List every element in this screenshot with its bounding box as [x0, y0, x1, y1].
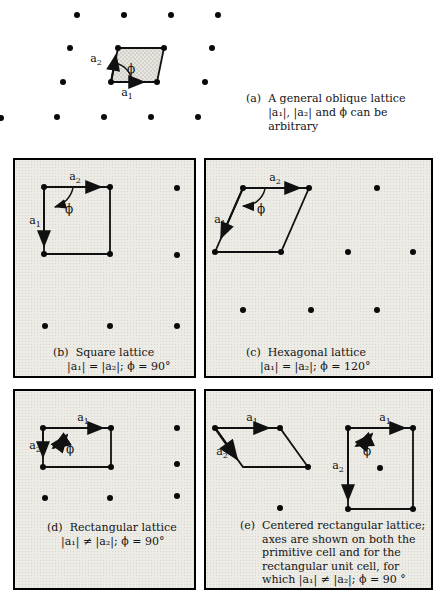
cell-corner-dot — [107, 251, 113, 257]
lattice-dot — [174, 461, 180, 467]
a1-label: a1 — [379, 411, 391, 426]
rectangular-unit-cell: a1 a2 ϕ — [29, 411, 114, 470]
a2-label: a2 — [269, 171, 281, 186]
lattice-dot — [308, 307, 314, 313]
caption-d-title: Rectangular lattice — [70, 521, 177, 535]
lattice-dot — [174, 185, 180, 191]
lattice-dot — [209, 45, 215, 51]
panel-d-rectangular-lattice: a1 a2 ϕ (d) Rectangular lattice |a₁| ≠ |… — [13, 389, 196, 590]
cell-corner-dot — [107, 184, 113, 190]
lattice-dot — [202, 79, 208, 85]
a1-label: a1 — [121, 86, 133, 101]
cell-corner-dot — [108, 425, 114, 431]
cell-corner-dot — [40, 464, 46, 470]
lattice-dot — [148, 114, 154, 120]
square-unit-cell: a2 a1 ϕ — [29, 170, 113, 257]
phi-angle-double-arrow — [53, 435, 67, 448]
lattice-dot — [54, 114, 60, 120]
cell-corner-dot — [345, 506, 351, 512]
caption-b-tag: (b) — [53, 346, 69, 360]
caption-a-line: A general oblique lattice — [268, 92, 436, 106]
a1-label: a1 — [214, 213, 226, 228]
a1-label: a1 — [77, 411, 89, 426]
bravais-lattices-figure: a2 a1 ϕ (a) A general oblique lattice |a… — [0, 0, 447, 604]
lattice-dot — [374, 185, 380, 191]
caption-e-line: which |a₁| ≠ |a₂|; ϕ = 90 ° — [262, 573, 430, 587]
lattice-dots — [240, 185, 416, 313]
phi-label: ϕ — [127, 62, 135, 76]
lattice-dot — [215, 12, 221, 18]
caption-b-formula: |a₁| = |a₂|; ϕ = 90° — [67, 360, 193, 374]
center-dot — [377, 465, 383, 471]
caption-e-line: rectangular unit cell, for — [262, 560, 430, 574]
oblique-unit-cell: a2 a1 ϕ — [90, 45, 167, 101]
panel-b-square-lattice: a2 a1 ϕ (b) Square lattice |a₁| = |a₂|; … — [13, 158, 196, 378]
caption-e: (e) Centered rectangular lattice; axes a… — [240, 519, 430, 587]
lattice-dot — [195, 114, 201, 120]
a1-vector — [221, 188, 243, 238]
lattice-dot — [107, 495, 113, 501]
caption-a: (a) A general oblique lattice |a₁|, |a₂|… — [246, 92, 436, 134]
caption-b-title: Square lattice — [76, 346, 155, 360]
cell-corner-dot — [212, 425, 218, 431]
lattice-dot — [60, 79, 66, 85]
caption-a-line: |a₁|, |a₂| and ϕ can be — [268, 106, 436, 120]
a2-label: a2 — [332, 459, 344, 474]
cell-corner-dot — [41, 184, 47, 190]
lattice-dot — [345, 249, 351, 255]
phi-label: ϕ — [65, 202, 73, 216]
caption-d-tag: (d) — [47, 521, 63, 535]
caption-c-tag: (c) — [246, 346, 261, 360]
cell-corner-dot — [154, 79, 160, 85]
cell-corner-dot — [108, 464, 114, 470]
cell-corner-dot — [410, 425, 416, 431]
a2-label: a2 — [90, 52, 102, 67]
lattice-dot — [174, 493, 180, 499]
cell-corner-dot — [161, 45, 167, 51]
unit-cell-shading — [111, 48, 164, 82]
lattice-dot — [74, 12, 80, 18]
lattice-dot — [67, 45, 73, 51]
hexagonal-lattice-drawing: a2 a1 ϕ — [206, 160, 431, 376]
cell-corner-dot — [240, 185, 246, 191]
cell-corner-dot — [305, 464, 311, 470]
cell-corner-dot — [345, 425, 351, 431]
a2-label: a2 — [69, 170, 81, 185]
cell-corner-dot — [41, 251, 47, 257]
cell-corner-dot — [410, 506, 416, 512]
hexagonal-unit-cell: a2 a1 ϕ — [212, 171, 312, 255]
lattice-dot — [168, 12, 174, 18]
panel-e-centered-rectangular-lattice: a1 a2 a1 a2 ϕ (e) — [204, 389, 433, 590]
lattice-dot — [0, 115, 4, 121]
cell-corner-dot — [306, 185, 312, 191]
cell-corner-dot — [115, 45, 121, 51]
caption-a-line: arbitrary — [268, 120, 436, 134]
lattice-dot — [101, 114, 107, 120]
cell-corner-dot — [108, 79, 114, 85]
phi-label: ϕ — [363, 444, 371, 458]
primitive-cell: a1 a2 — [212, 411, 311, 470]
lattice-dot — [42, 495, 48, 501]
a2-label: a2 — [216, 445, 228, 460]
phi-label: ϕ — [66, 442, 74, 456]
oblique-lattice-drawing: a2 a1 ϕ — [0, 0, 250, 140]
lattice-dot — [240, 307, 246, 313]
caption-e-line: axes are shown on both the — [262, 533, 430, 547]
square-lattice-drawing: a2 a1 ϕ — [15, 160, 194, 376]
a1-label: a1 — [246, 411, 258, 426]
cell-corner-dot — [40, 425, 46, 431]
caption-e-tag: (e) — [240, 519, 255, 587]
lattice-dot — [107, 323, 113, 329]
phi-label: ϕ — [257, 202, 265, 216]
caption-c-title: Hexagonal lattice — [268, 346, 366, 360]
caption-e-line: Centered rectangular lattice; — [262, 519, 430, 533]
caption-c: (c) Hexagonal lattice |a₁| = |a₂|; ϕ = 1… — [246, 346, 416, 374]
rectangular-unit-cell: a1 a2 ϕ — [332, 411, 416, 512]
lattice-dot — [174, 425, 180, 431]
a2-label: a2 — [29, 439, 41, 454]
rectangular-lattice-drawing: a1 a2 ϕ — [15, 391, 194, 588]
a1-label: a1 — [29, 214, 41, 229]
caption-e-line: primitive cell and for the — [262, 546, 430, 560]
caption-d: (d) Rectangular lattice |a₁| ≠ |a₂|; ϕ =… — [47, 521, 197, 549]
caption-a-tag: (a) — [246, 92, 261, 134]
